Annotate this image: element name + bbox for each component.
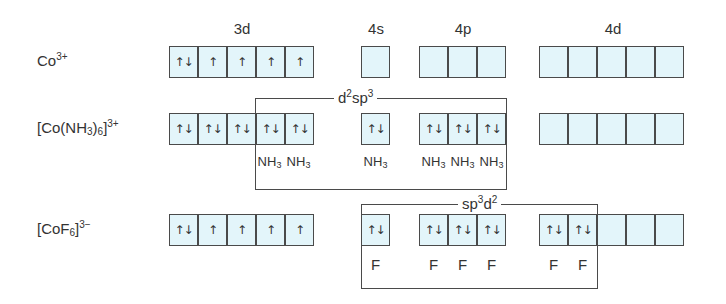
unpaired-electron-icon: ↑ — [295, 223, 304, 237]
ligand-label: NH3 — [284, 154, 313, 169]
ligand-label: F — [361, 256, 390, 273]
orbital-3d-5: ↑↓ — [285, 113, 314, 145]
orbital-4d-3 — [597, 214, 626, 246]
species-co-nh3-6: [Co(NH3)6]3+ — [37, 119, 119, 136]
orbital-3d-3: ↑↓ — [227, 113, 256, 145]
orbital-3d-1: ↑↓ — [169, 214, 198, 246]
paired-electron-icon: ↑↓ — [366, 223, 384, 237]
orbital-3d-2: ↑↓ — [198, 113, 227, 145]
orbital-3d-2: ↑ — [198, 214, 227, 246]
orbital-3d-5: ↑ — [285, 214, 314, 246]
orbital-3d-3: ↑ — [227, 46, 256, 78]
unpaired-electron-icon: ↑ — [208, 55, 217, 69]
orbital-4d-5 — [655, 214, 684, 246]
orbital-4s-1 — [361, 46, 390, 78]
orbital-4d-2: ↑↓ — [568, 214, 597, 246]
d2sp3-label: d2sp3 — [334, 88, 377, 106]
orbital-4p-3: ↑↓ — [477, 214, 506, 246]
orbital-3d-4: ↑ — [256, 214, 285, 246]
paired-electron-icon: ↑↓ — [366, 122, 384, 136]
orbital-4d-4 — [626, 214, 655, 246]
orbital-4d-5 — [655, 46, 684, 78]
sp3d2-label: sp3d2 — [458, 194, 501, 212]
species-cof6: [CoF6]3− — [37, 220, 91, 237]
unpaired-electron-icon: ↑ — [208, 223, 217, 237]
ligand-label: NH3 — [477, 154, 506, 169]
paired-electron-icon: ↑↓ — [453, 223, 471, 237]
paired-electron-icon: ↑↓ — [544, 223, 562, 237]
orbital-4d-3 — [597, 113, 626, 145]
unpaired-electron-icon: ↑ — [295, 55, 304, 69]
ligand-label: NH3 — [255, 154, 284, 169]
orbital-3d-3: ↑ — [227, 214, 256, 246]
orbital-3d-5: ↑ — [285, 46, 314, 78]
paired-electron-icon: ↑↓ — [203, 122, 221, 136]
species-co3plus: Co3+ — [37, 52, 68, 69]
ligand-label: F — [477, 256, 506, 273]
ligand-label: F — [419, 256, 448, 273]
paired-electron-icon: ↑↓ — [232, 122, 250, 136]
orbital-4s-1: ↑↓ — [361, 214, 390, 246]
orbital-4d-1 — [539, 46, 568, 78]
paired-electron-icon: ↑↓ — [174, 55, 192, 69]
unpaired-electron-icon: ↑ — [266, 55, 275, 69]
unpaired-electron-icon: ↑ — [237, 223, 246, 237]
orbital-4s-1: ↑↓ — [361, 113, 390, 145]
paired-electron-icon: ↑↓ — [482, 223, 500, 237]
orbital-4p-2 — [448, 46, 477, 78]
paired-electron-icon: ↑↓ — [424, 122, 442, 136]
ligand-label: F — [539, 256, 568, 273]
orbital-4p-3: ↑↓ — [477, 113, 506, 145]
orbital-3d-4: ↑ — [256, 46, 285, 78]
paired-electron-icon: ↑↓ — [261, 122, 279, 136]
orbital-4d-1 — [539, 113, 568, 145]
orbital-4p-3 — [477, 46, 506, 78]
orbital-4p-2: ↑↓ — [448, 113, 477, 145]
orbital-4d-4 — [626, 113, 655, 145]
orbital-4d-4 — [626, 46, 655, 78]
orbital-4p-1 — [419, 46, 448, 78]
ligand-label: F — [568, 256, 597, 273]
orbital-4d-2 — [568, 46, 597, 78]
paired-electron-icon: ↑↓ — [453, 122, 471, 136]
orbital-4p-2: ↑↓ — [448, 214, 477, 246]
orbital-4p-1: ↑↓ — [419, 113, 448, 145]
ligand-label: F — [448, 256, 477, 273]
paired-electron-icon: ↑↓ — [482, 122, 500, 136]
ligand-label: NH3 — [361, 154, 390, 169]
ligand-label: NH3 — [419, 154, 448, 169]
orbital-4p-1: ↑↓ — [419, 214, 448, 246]
orbital-4d-3 — [597, 46, 626, 78]
paired-electron-icon: ↑↓ — [573, 223, 591, 237]
shell-label-3d: 3d — [222, 20, 262, 37]
orbital-4d-1: ↑↓ — [539, 214, 568, 246]
unpaired-electron-icon: ↑ — [266, 223, 275, 237]
paired-electron-icon: ↑↓ — [174, 122, 192, 136]
shell-label-4s: 4s — [356, 20, 396, 37]
orbital-3d-4: ↑↓ — [256, 113, 285, 145]
unpaired-electron-icon: ↑ — [237, 55, 246, 69]
orbital-3d-2: ↑ — [198, 46, 227, 78]
orbital-4d-2 — [568, 113, 597, 145]
ligand-label: NH3 — [448, 154, 477, 169]
paired-electron-icon: ↑↓ — [290, 122, 308, 136]
shell-label-4d: 4d — [593, 20, 633, 37]
paired-electron-icon: ↑↓ — [424, 223, 442, 237]
shell-label-4p: 4p — [443, 20, 483, 37]
orbital-3d-1: ↑↓ — [169, 113, 198, 145]
orbital-4d-5 — [655, 113, 684, 145]
orbital-3d-1: ↑↓ — [169, 46, 198, 78]
paired-electron-icon: ↑↓ — [174, 223, 192, 237]
